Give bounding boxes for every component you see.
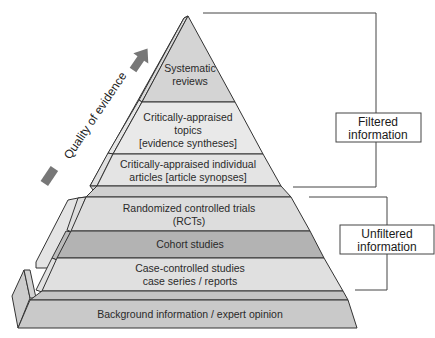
filtered-label-line2: information [348,128,407,142]
tier-label-articles-line1: Critically-appraised individual [120,158,256,170]
filtered-information-box: Filtered information [336,113,421,142]
tier-systematic-reviews [142,16,235,102]
unfiltered-label-line2: information [357,240,416,254]
tier-label-rcts-line1: Randomized controlled trials [123,202,255,214]
unfiltered-label-line1: Unfiltered [361,227,412,241]
evidence-pyramid-diagram: Systematic reviews Critically-appraised … [0,0,435,338]
tier-ledge-upper [86,186,291,197]
tier-label-articles-line2: articles [article synopses] [129,171,246,183]
arrow-up-icon [126,43,155,75]
tier-label-case-line2: case series / reports [143,275,238,287]
filtered-label-line1: Filtered [358,115,398,129]
tier-ledge-lower [30,291,348,300]
tier-label-cohort: Cohort studies [156,238,224,250]
tier-label-topics-line2: topics [174,124,201,136]
tier-label-background: Background information / expert opinion [97,308,283,320]
tier-label-topics-line1: Critically-appraised [143,111,232,123]
tier-label-topics-line3: [evidence syntheses] [139,137,237,149]
tier-label-systematic-line2: reviews [172,75,208,87]
tier-label-systematic-line1: Systematic [164,62,215,74]
tier-label-case-line1: Case-controlled studies [135,262,245,274]
tier-label-rcts-line2: (RCTs) [173,215,206,227]
arrow-dash-icon [41,166,59,186]
unfiltered-information-box: Unfiltered information [340,225,434,254]
